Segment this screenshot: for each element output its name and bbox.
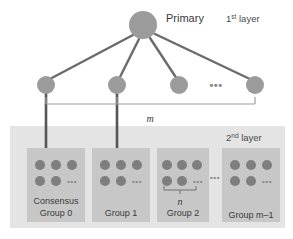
group-0-node-r1-c3 [67,160,77,170]
group-0-node-r2-c1 [35,176,45,186]
group-1-node-r1-c3 [132,160,142,170]
group-0: ••• Consensus Group 0 [27,148,85,222]
group-2-node-r1-c3 [192,160,202,170]
layer1-node-0 [37,76,55,94]
layer1-node-1 [108,76,126,94]
group-0-label-line-2: Group 0 [40,208,73,218]
group-1-node-r1-c1 [100,160,110,170]
edge-primary-node-1 [119,39,139,79]
group-m-1: ••• Group m–1 [222,148,280,222]
group-2-label-line-1: Group 2 [167,208,200,218]
group-0-node-r1-c2 [51,160,61,170]
second-layer-suffix: layer [239,132,262,143]
group-m-1-node-r2-c1 [230,176,240,186]
diagram-root: m ••• Primary 1st layer 2nd layer [0,0,293,239]
m-label: m [146,113,153,124]
group-2-ellipsis-icon: ••• [193,177,203,186]
group-0-label-line-1: Consensus [33,196,79,206]
group-2-node-r2-c2 [177,176,187,186]
edge-primary-node-3 [155,34,252,80]
group-m-1-ellipsis-icon: ••• [262,177,272,186]
primary-edges [48,34,252,80]
primary-label: Primary [166,12,204,24]
group-0-node-r2-c2 [51,176,61,186]
primary-node [129,11,157,39]
first-layer-label: 1st layer [226,13,260,25]
group-2-node-r1-c2 [177,160,187,170]
group-0-ellipsis-icon: ••• [67,177,77,186]
group-m-1-node-r2-c2 [246,176,256,186]
group-1-node-r2-c2 [116,176,126,186]
group-1: ••• Group 1 [92,148,150,222]
group-m-1-node-r1-c1 [230,160,240,170]
group-0-node-r1-c1 [35,160,45,170]
layer1-node-2 [170,76,188,94]
group-2-node-r1-c1 [162,160,172,170]
layer1-node-3 [246,76,264,94]
edge-primary-node-0 [48,35,133,80]
layer1-ellipsis-icon: ••• [209,79,222,91]
m-bracket [46,97,255,104]
group-1-ellipsis-icon: ••• [132,177,142,186]
group-2-node-r2-c1 [162,176,172,186]
hierarchy-diagram: m ••• Primary 1st layer 2nd layer [0,0,293,239]
edge-primary-node-2 [150,38,177,79]
group-m-1-node-r1-c2 [246,160,256,170]
group-m-1-label-line-1: Group m–1 [228,210,273,220]
group-1-node-r1-c2 [116,160,126,170]
first-layer-suffix: layer [236,13,259,24]
group-1-label-line-1: Group 1 [105,208,138,218]
group-1-node-r2-c1 [100,176,110,186]
group-2: ••• n Group 2 [157,148,209,222]
group-m-1-node-r1-c3 [262,160,272,170]
n-label: n [178,196,183,207]
groups-ellipsis-icon: ••• [210,173,220,182]
